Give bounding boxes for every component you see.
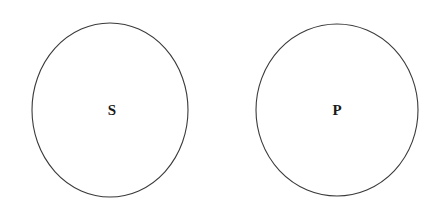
circle-s-label: S: [108, 102, 116, 118]
diagram-canvas: S P: [0, 0, 447, 214]
two-circle-diagram: S P: [0, 0, 447, 214]
circle-p-label: P: [332, 102, 341, 118]
